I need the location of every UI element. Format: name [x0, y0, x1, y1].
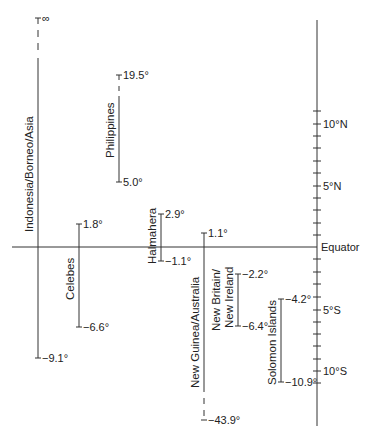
philippines-bottom-label: 5.0° [123, 176, 143, 188]
range-new-guinea [201, 233, 207, 420]
new-britain-bottom-label: −6.4° [242, 320, 268, 332]
halmahera-bottom-label: −1.1° [165, 255, 191, 267]
tick-label-10s: 10°S [323, 365, 347, 377]
range-solomon [278, 299, 284, 382]
range-philippines [116, 75, 122, 182]
tick-label-5n: 5°N [323, 180, 342, 192]
range-halmahera [158, 214, 164, 261]
new-britain-name-line2: New Ireland [223, 267, 235, 328]
new-britain-top-label: −2.2° [242, 268, 268, 280]
philippines-name: Philippines [104, 102, 116, 158]
new-britain-name-line1: New Britain/ [210, 268, 222, 331]
philippines-top-label: 19.5° [123, 69, 149, 81]
range-celebes [76, 224, 82, 327]
indonesia-top-label: ∞ [42, 12, 50, 24]
solomon-bottom-label: −10.9° [285, 376, 317, 388]
solomon-top-label: −4.2° [285, 293, 311, 305]
range-indonesia [35, 18, 41, 358]
latitude-diagram: 10°N 5°N Equator 5°S 10°S ∞ −9.1° 1.8° −… [0, 0, 370, 436]
tick-label-5s: 5°S [323, 304, 341, 316]
new-guinea-name: New Guinea/Australia [189, 276, 201, 388]
tick-label-10n: 10°N [323, 118, 348, 130]
new-guinea-bottom-label: −43.9° [208, 414, 240, 426]
halmahera-name: Halmahera [146, 207, 158, 264]
halmahera-top-label: 2.9° [165, 208, 185, 220]
indonesia-name: Indonesia/Borneo/Asia [23, 116, 35, 232]
new-guinea-top-label: 1.1° [208, 227, 228, 239]
celebes-top-label: 1.8° [83, 218, 103, 230]
celebes-name: Celebes [64, 258, 76, 300]
equator-label: Equator [321, 241, 360, 253]
range-new-britain [235, 274, 241, 326]
solomon-name: Solomon Islands [266, 300, 278, 385]
indonesia-bottom-label: −9.1° [42, 352, 68, 364]
celebes-bottom-label: −6.6° [83, 321, 109, 333]
